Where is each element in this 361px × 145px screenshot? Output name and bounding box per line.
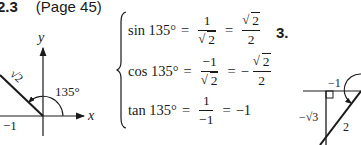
- terminal-side: [0, 75, 43, 116]
- tan-lhs: tan 135°: [128, 102, 177, 119]
- equals-sign: =: [225, 22, 233, 39]
- horizontal-leg-label: −1: [328, 76, 341, 91]
- cos-fraction-2: √2 2: [253, 55, 271, 88]
- denominator: 2: [248, 33, 255, 47]
- x-axis-label: x: [88, 108, 94, 124]
- minus-sign: −: [241, 63, 249, 80]
- equals-sign: =: [227, 63, 235, 80]
- denominator: −1: [199, 113, 213, 127]
- equals-sign: =: [184, 63, 192, 80]
- equals-sign: =: [222, 102, 230, 119]
- hypotenuse-label-right: 2: [343, 120, 349, 135]
- denominator: 2: [258, 74, 265, 88]
- equals-sign: =: [181, 22, 189, 39]
- sin-equation: sin 135° = 1 √2 = √2 2: [128, 14, 264, 47]
- cos-lhs: cos 135°: [128, 63, 179, 80]
- cos-fraction-1: −1 √2: [201, 55, 219, 88]
- sin-fraction-2: √2 2: [242, 14, 260, 47]
- sqrt: √2: [242, 14, 260, 28]
- tan-result: −1: [236, 102, 251, 119]
- angle-arc-right: [344, 74, 361, 103]
- sqrt: √2: [253, 55, 271, 69]
- numerator: −1: [202, 55, 216, 69]
- sqrt: √2: [198, 33, 216, 47]
- tan-fraction: 1 −1: [199, 94, 213, 127]
- x-value-label: −1: [3, 118, 17, 134]
- tan-equation: tan 135° = 1 −1 = −1: [128, 94, 251, 127]
- left-brace: [117, 12, 126, 128]
- numerator: 2: [262, 53, 271, 69]
- sin-lhs: sin 135°: [128, 22, 176, 39]
- denominator: 2: [210, 72, 219, 88]
- problem-number: 3.: [276, 24, 289, 41]
- equals-sign: =: [182, 102, 190, 119]
- angle-label: 135°: [55, 84, 80, 100]
- cos-equation: cos 135° = −1 √2 = − √2 2: [128, 55, 275, 88]
- sqrt: √2: [201, 74, 219, 88]
- y-axis-label: y: [38, 30, 44, 46]
- right-angle-marker: [326, 91, 333, 98]
- numerator: 2: [251, 12, 260, 28]
- vertical-leg-label: −√3: [299, 110, 318, 125]
- sin-fraction-1: 1 √2: [198, 14, 216, 47]
- numerator: 1: [203, 94, 210, 108]
- denominator: 2: [207, 31, 216, 47]
- numerator: 1: [204, 14, 211, 28]
